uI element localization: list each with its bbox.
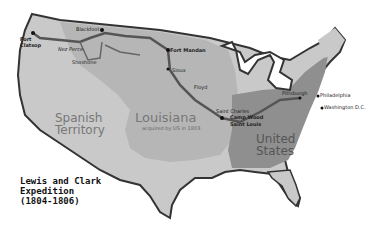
- map-title: Lewis and Clark Expedition (1804-1806): [20, 176, 101, 206]
- label-united-states: UnitedStates: [256, 133, 295, 157]
- label-louisiana-acquired: acquired by US in 1803: [142, 125, 200, 131]
- label-washington-dc: Washington D.C.: [324, 104, 366, 110]
- label-pittsburgh: Pittsburgh: [282, 90, 307, 96]
- label-shoshone: Shoshone: [72, 59, 96, 65]
- label-floyd: Floyd: [194, 84, 207, 90]
- label-fort-mandan: Fort Mandan: [170, 47, 206, 53]
- label-saint-louis: Saint Louis: [230, 121, 261, 127]
- label-spanish-territory: SpanishTerritory: [55, 112, 105, 136]
- label-nez-perce: Nez Perce: [58, 46, 83, 52]
- florida-region: [268, 170, 300, 206]
- label-fort-clatsop: FortClatsop: [20, 36, 41, 48]
- label-blackfoot: Blackfoot: [76, 26, 99, 32]
- label-sioux: Sioux: [172, 67, 186, 73]
- label-philadelphia: Philadelphia: [320, 92, 350, 98]
- label-louisiana: Louisiana: [135, 110, 196, 125]
- label-camp-wood: Camp Wood: [230, 114, 263, 120]
